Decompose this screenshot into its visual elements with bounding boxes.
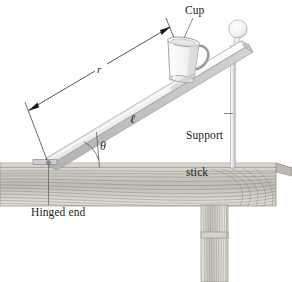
dimension-r-line-lower xyxy=(29,71,95,110)
label-cup: Cup xyxy=(185,4,204,16)
table-leg xyxy=(201,205,228,282)
hinge-plate xyxy=(33,160,57,165)
table-leg-joint-band xyxy=(201,232,228,238)
table-leg-body xyxy=(201,205,228,282)
dimension-r-arrowhead-lower xyxy=(28,103,39,112)
label-hinged-end: Hinged end xyxy=(31,206,85,218)
diagram-canvas xyxy=(0,0,292,282)
hinge-block xyxy=(33,160,57,165)
dimension-r-arrowhead-upper xyxy=(160,27,171,36)
table-right-endcap xyxy=(276,163,292,176)
label-support-stick-line2: stick xyxy=(186,166,223,178)
support-stick-ball-icon xyxy=(229,20,247,38)
physics-diagram-figure: Cup Support stick Hinged end θ ℓ r xyxy=(0,0,292,282)
label-support-stick-line1: Support xyxy=(186,129,223,141)
label-support-stick: Support stick xyxy=(186,104,223,203)
label-length-ell: ℓ xyxy=(130,113,135,126)
dimension-r-extension-left xyxy=(25,102,47,160)
support-stick xyxy=(229,20,247,168)
label-angle-theta: θ xyxy=(100,140,106,153)
table-bench xyxy=(0,163,292,208)
dimension-r-line-upper xyxy=(107,27,170,64)
leader-line-cup xyxy=(184,18,193,38)
label-distance-r: r xyxy=(97,64,101,76)
